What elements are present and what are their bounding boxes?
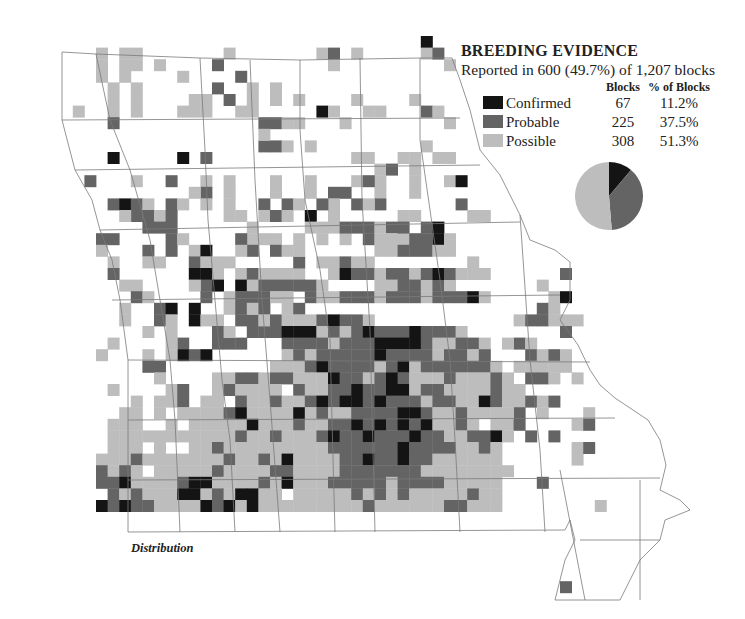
block-cell (409, 500, 421, 512)
block-cell (490, 372, 502, 384)
block-cell (386, 488, 398, 500)
block-cell (374, 430, 386, 442)
legend-blocks: 308 (602, 132, 644, 151)
legend-row-confirmed: Confirmed 67 11.2% (483, 94, 714, 113)
block-cell (340, 361, 352, 373)
block-cell (189, 245, 201, 257)
block-cell (142, 488, 154, 500)
legend-table: Blocks % of Blocks Confirmed 67 11.2% Pr… (483, 80, 714, 151)
block-cell (363, 152, 375, 164)
block-cell (572, 442, 584, 454)
block-cell (525, 338, 537, 350)
block-cell (444, 291, 456, 303)
block-cell (166, 233, 178, 245)
block-cell (374, 326, 386, 338)
block-cell (247, 442, 259, 454)
block-cell (572, 419, 584, 431)
block-cell (316, 477, 328, 489)
block-cell (270, 361, 282, 373)
block-cell (235, 372, 247, 384)
block-cell (224, 175, 236, 187)
block-cell (363, 361, 375, 373)
block-cell (502, 338, 514, 350)
block-cell (502, 396, 514, 408)
block-cell (131, 477, 143, 489)
block-cell (444, 407, 456, 419)
block-cell (235, 488, 247, 500)
block-cell (456, 430, 468, 442)
block-cell (467, 407, 479, 419)
block-cell (154, 407, 166, 419)
block-cell (374, 384, 386, 396)
block-cell (305, 419, 317, 431)
block-cell (409, 291, 421, 303)
block-cell (177, 477, 189, 489)
block-cell (270, 175, 282, 187)
block-cell (456, 361, 468, 373)
block-cell (247, 407, 259, 419)
block-cell (328, 384, 340, 396)
block-cell (177, 233, 189, 245)
block-cell (363, 106, 375, 118)
block-cell (282, 198, 294, 210)
block-cell (200, 500, 212, 512)
block-cell (363, 222, 375, 234)
block-cell (282, 303, 294, 315)
block-cell (142, 500, 154, 512)
block-cell (247, 326, 259, 338)
block-cell (432, 396, 444, 408)
block-cell (456, 396, 468, 408)
block-cell (154, 59, 166, 71)
block-cell (270, 187, 282, 199)
block-cell (166, 384, 178, 396)
block-cell (316, 419, 328, 431)
block-cell (363, 326, 375, 338)
block-cell (154, 430, 166, 442)
block-cell (398, 454, 410, 466)
block-cell (432, 326, 444, 338)
legend-title: BREEDING EVIDENCE (461, 42, 741, 60)
block-cell (456, 454, 468, 466)
block-cell (432, 361, 444, 373)
block-cell (293, 198, 305, 210)
block-cell (224, 419, 236, 431)
block-cell (537, 407, 549, 419)
block-cell (131, 419, 143, 431)
block-cell (386, 361, 398, 373)
block-cell (258, 465, 270, 477)
block-cell (212, 407, 224, 419)
block-cell (398, 430, 410, 442)
block-cell (374, 187, 386, 199)
block-cell (270, 442, 282, 454)
block-cell (444, 384, 456, 396)
block-cell (374, 349, 386, 361)
block-cell (189, 280, 201, 292)
block-cell (398, 442, 410, 454)
block-cell (340, 233, 352, 245)
block-cell (340, 477, 352, 489)
block-cell (398, 465, 410, 477)
block-cell (386, 500, 398, 512)
block-cell (537, 280, 549, 292)
block-cell (502, 407, 514, 419)
block-cell (421, 407, 433, 419)
block-cell (224, 256, 236, 268)
block-cell (224, 384, 236, 396)
block-cell (305, 326, 317, 338)
block-cell (328, 268, 340, 280)
block-cell (340, 419, 352, 431)
block-cell (316, 233, 328, 245)
block-cell (293, 256, 305, 268)
block-cell (305, 338, 317, 350)
block-cell (235, 291, 247, 303)
block-cell (374, 106, 386, 118)
block-cell (154, 488, 166, 500)
block-cell (340, 454, 352, 466)
block-cell (398, 349, 410, 361)
block-cell (224, 488, 236, 500)
block-cell (142, 361, 154, 373)
block-cell (351, 500, 363, 512)
block-cell (258, 396, 270, 408)
block-cell (340, 488, 352, 500)
block-cell (235, 500, 247, 512)
